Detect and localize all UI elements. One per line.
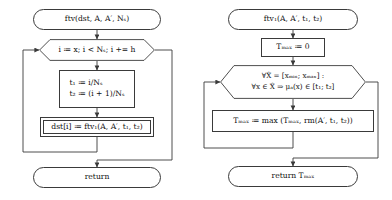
ftv-start-label: ftv(dst, A, A′, Nₛ): [65, 15, 129, 24]
ftv-assign-lines: t₁ ≔ i/Nₛ t₂ ≔ (i + 1)/Nₛ: [65, 79, 130, 99]
ftv-call-box: dst[i] ≔ ftv₁(A, A′, t₁, t₂): [40, 117, 154, 137]
ftv1-return-terminal: return Tₘₐₓ: [228, 166, 358, 187]
ftv-loop-label: i ≔ x; i < Nₛ; i += h: [58, 46, 135, 55]
edge-exit-left: [97, 50, 172, 167]
ftv1-loop-line-2: ∀x ∈ X̂ ⇒ μₐ(x) ∈ [t₁; t₂]: [252, 83, 335, 91]
flowchart-canvas: ftv(dst, A, A′, Nₛ) i ≔ x; i < Nₛ; i += …: [0, 0, 392, 200]
ftv-assign-line-1: t₁ ≔ i/Nₛ: [70, 79, 103, 88]
ftv1-start-label: ftv₁(A, A′, t₁, t₂): [264, 15, 323, 24]
ftv1-return-label: return Tₘₐₓ: [272, 172, 315, 181]
ftv-call-label: dst[i] ≔ ftv₁(A, A′, t₁, t₂): [51, 123, 142, 132]
ftv-return-terminal: return: [33, 167, 161, 188]
ftv-assign-box: t₁ ≔ i/Nₛ t₂ ≔ (i + 1)/Nₛ: [59, 70, 135, 108]
ftv-start-terminal: ftv(dst, A, A′, Nₛ): [33, 9, 161, 30]
ftv-return-label: return: [85, 173, 110, 182]
ftv-assign-line-2: t₂ ≔ (i + 1)/Nₛ: [70, 90, 125, 99]
ftv1-loop-lines: ∀X̂ = [xₘᵢₙ; xₘₐₓ] : ∀x ∈ X̂ ⇒ μₐ(x) ∈ […: [252, 72, 335, 91]
ftv1-loop-hexagon: ∀X̂ = [xₘᵢₙ; xₘₐₓ] : ∀x ∈ X̂ ⇒ μₐ(x) ∈ […: [220, 65, 366, 99]
ftv1-init-label: Tₘₐₓ ≔ 0: [276, 43, 309, 52]
ftv1-body-box: Tₘₐₓ ≔ max (Tₘₐₓ, rm(A′, t₁, t₂)): [212, 110, 374, 132]
ftv1-start-terminal: ftv₁(A, A′, t₁, t₂): [228, 9, 358, 30]
ftv-loop-hexagon: i ≔ x; i < Nₛ; i += h: [39, 39, 155, 61]
ftv1-init-box: Tₘₐₓ ≔ 0: [261, 38, 325, 57]
ftv1-loop-line-1: ∀X̂ = [xₘᵢₙ; xₘₐₓ] :: [262, 72, 324, 80]
ftv1-body-label: Tₘₐₓ ≔ max (Tₘₐₓ, rm(A′, t₁, t₂)): [233, 117, 352, 126]
